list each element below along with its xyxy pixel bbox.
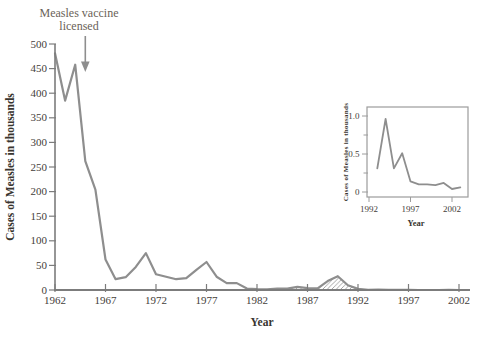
main-x-tick-label: 2002 bbox=[448, 294, 470, 306]
main-data-line bbox=[55, 53, 459, 290]
main-y-tick-label: 50 bbox=[36, 259, 48, 271]
inset-plot: 19921997200200.51.0 bbox=[348, 107, 468, 214]
main-y-tick-label: 500 bbox=[31, 38, 48, 50]
main-y-axis-label: Cases of Measles in thousands bbox=[4, 93, 16, 241]
main-x-tick-label: 1997 bbox=[398, 294, 421, 306]
inset-data-line bbox=[377, 119, 460, 189]
measles-cases-figure: 1962196719721977198219871992199720020501… bbox=[0, 0, 482, 339]
inset-x-tick-label: 2002 bbox=[443, 204, 461, 214]
inset-y-tick-label: 0.5 bbox=[348, 149, 360, 159]
main-y-tick-label: 250 bbox=[31, 161, 48, 173]
main-y-tick-label: 100 bbox=[31, 234, 48, 246]
inset-y-tick-label: 1.0 bbox=[348, 111, 360, 121]
main-x-tick-label: 1977 bbox=[196, 294, 219, 306]
measles-chart-svg: 1962196719721977198219871992199720020501… bbox=[0, 0, 482, 339]
main-x-tick-label: 1972 bbox=[145, 294, 167, 306]
main-x-tick-label: 1987 bbox=[297, 294, 320, 306]
main-y-tick-label: 350 bbox=[31, 111, 48, 123]
main-y-tick-label: 150 bbox=[31, 210, 48, 222]
main-x-tick-label: 1982 bbox=[246, 294, 268, 306]
main-y-tick-label: 0 bbox=[42, 284, 48, 296]
main-y-tick-label: 300 bbox=[31, 136, 48, 148]
main-x-axis-label: Year bbox=[251, 316, 274, 328]
main-y-tick-label: 200 bbox=[31, 185, 48, 197]
main-x-tick-label: 1967 bbox=[95, 294, 118, 306]
main-x-tick-label: 1992 bbox=[347, 294, 369, 306]
main-plot: 1962196719721977198219871992199720020501… bbox=[31, 36, 471, 306]
vaccine-arrow-head bbox=[81, 62, 90, 73]
inset-y-axis-label: Cases of Measles in thousands bbox=[342, 103, 350, 202]
inset-x-tick-label: 1992 bbox=[360, 204, 378, 214]
main-y-tick-label: 450 bbox=[31, 62, 48, 74]
main-x-tick-label: 1962 bbox=[44, 294, 66, 306]
inset-y-tick-label: 0 bbox=[355, 187, 360, 197]
annotation-line-2: licensed bbox=[59, 19, 98, 33]
inset-x-tick-label: 1997 bbox=[402, 204, 421, 214]
annotation-line-1: Measles vaccine bbox=[40, 6, 119, 20]
main-y-tick-label: 400 bbox=[31, 87, 48, 99]
inset-x-axis-label: Year bbox=[408, 218, 425, 228]
